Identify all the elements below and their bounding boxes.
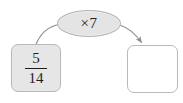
connector-operator-to-output [120, 25, 142, 43]
operator-label: ×7 [81, 16, 98, 31]
output-node[interactable] [127, 45, 178, 93]
operator-node: ×7 [57, 10, 121, 37]
fraction-bar [25, 68, 47, 69]
diagram-canvas: ×7 5 14 [0, 0, 183, 103]
input-node: 5 14 [11, 44, 61, 92]
connector-input-to-operator [36, 25, 60, 46]
input-fraction: 5 14 [25, 51, 47, 86]
fraction-denominator: 14 [29, 70, 44, 86]
output-answer-value [152, 69, 153, 70]
fraction-numerator: 5 [32, 51, 40, 67]
